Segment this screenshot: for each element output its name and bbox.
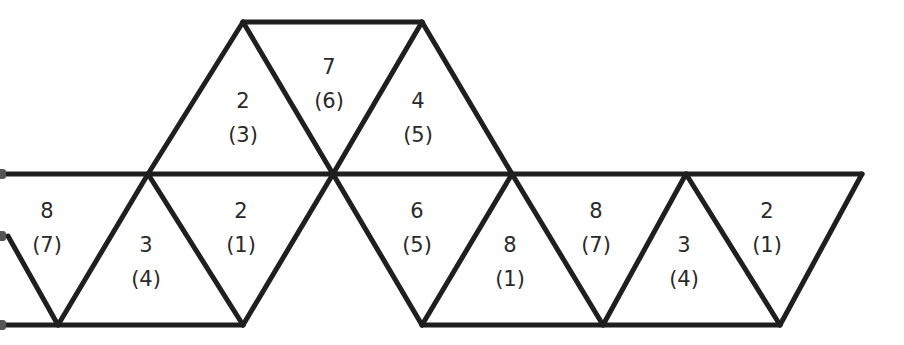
- face-label-bot-1: 8(7): [17, 194, 77, 262]
- face-label-bot-2: 3(4): [116, 228, 176, 296]
- face-label-bot-7: 3(4): [654, 228, 714, 296]
- face-label-top-1: 2(3): [213, 84, 273, 152]
- face-label-top-3: 4(5): [388, 84, 448, 152]
- face-label-top-2: 7(6): [299, 50, 359, 118]
- triangle-net-diagram: 2(3) 7(6) 4(5) 8(7) 3(4) 2(1) 6(5) 8(1) …: [0, 0, 904, 345]
- binding-mark: [0, 320, 6, 330]
- face-label-bot-3: 2(1): [211, 194, 271, 262]
- face-label-bot-6: 8(7): [566, 194, 626, 262]
- face-label-bot-4: 6(5): [387, 194, 447, 262]
- face-label-bot-8: 2(1): [737, 194, 797, 262]
- binding-mark: [0, 169, 6, 179]
- binding-mark: [0, 231, 6, 241]
- face-label-bot-5: 8(1): [480, 228, 540, 296]
